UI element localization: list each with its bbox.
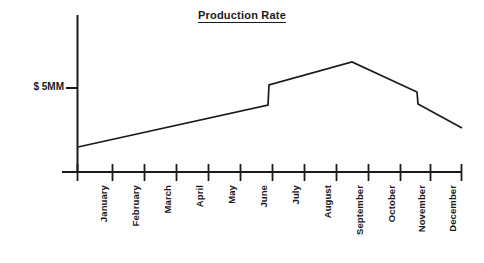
chart-title-text: Production Rate bbox=[198, 9, 286, 23]
chart-canvas bbox=[0, 0, 484, 263]
y-axis-label-5mm: $ 5MM bbox=[8, 81, 64, 92]
chart-title: Production Rate bbox=[0, 9, 484, 21]
production-rate-line bbox=[78, 62, 462, 147]
production-rate-chart: Production Rate $ 5MM January February M… bbox=[0, 0, 484, 263]
